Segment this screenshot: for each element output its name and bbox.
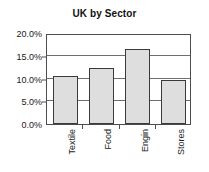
y-axis-tick-label: 15.0% xyxy=(16,52,42,61)
x-axis: TextileFoodEnginStores xyxy=(46,129,191,172)
x-axis-tick-label: Textile xyxy=(68,129,77,155)
x-axis-tick-label: Food xyxy=(104,129,113,150)
y-axis-tick-label: 10.0% xyxy=(16,75,42,84)
bar-chart: UK by Sector 0.0%5.0%10.0%15.0%20.0% Tex… xyxy=(0,0,209,172)
bar-stores xyxy=(161,80,186,124)
y-axis-tick-label: 5.0% xyxy=(21,98,42,107)
bar-engin xyxy=(125,49,150,124)
x-axis-tick-label: Engin xyxy=(141,129,150,152)
bar-food xyxy=(89,68,114,124)
y-axis: 0.0%5.0%10.0%15.0%20.0% xyxy=(0,34,42,125)
plot-area xyxy=(46,34,191,125)
chart-title: UK by Sector xyxy=(0,8,209,19)
y-axis-tick-label: 0.0% xyxy=(21,121,42,130)
y-axis-tick-label: 20.0% xyxy=(16,30,42,39)
bar-textile xyxy=(53,76,78,124)
gridline xyxy=(47,55,190,56)
x-axis-tick-label: Stores xyxy=(177,129,186,155)
